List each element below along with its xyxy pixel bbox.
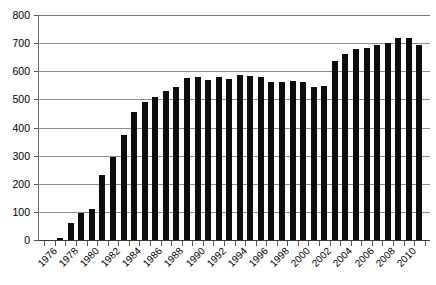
bar-chart: 0100200300400500600700800 19761978198019… — [0, 0, 436, 285]
bar — [311, 87, 317, 240]
bar — [247, 76, 253, 240]
bar — [110, 157, 116, 240]
bar — [406, 38, 412, 241]
bar — [131, 112, 137, 240]
bar — [226, 79, 232, 240]
y-tick-label: 600 — [0, 66, 30, 77]
bar — [195, 77, 201, 240]
y-tick-label: 700 — [0, 38, 30, 49]
bar — [89, 209, 95, 240]
bar — [121, 135, 127, 240]
bar — [68, 223, 74, 240]
bar — [268, 82, 274, 240]
bar — [332, 61, 338, 240]
bar — [99, 175, 105, 240]
plot-area — [38, 15, 430, 241]
y-tick-label: 500 — [0, 94, 30, 105]
bar — [290, 81, 296, 240]
y-tick-label: 0 — [0, 235, 30, 246]
bar — [57, 238, 63, 240]
bar — [416, 45, 422, 240]
bar — [279, 82, 285, 240]
bar — [216, 77, 222, 240]
bar — [342, 54, 348, 240]
bar — [237, 75, 243, 240]
bar — [184, 78, 190, 240]
bar — [142, 102, 148, 240]
y-tick-label: 100 — [0, 207, 30, 218]
bar-series — [39, 15, 430, 240]
bar — [364, 48, 370, 240]
bar — [163, 91, 169, 240]
bar — [300, 82, 306, 240]
x-axis-labels: 1976197819801982198419861988199019921994… — [0, 246, 436, 285]
bar — [321, 86, 327, 240]
y-tick-label: 400 — [0, 123, 30, 134]
y-tick-label: 800 — [0, 10, 30, 21]
bar — [78, 213, 84, 240]
bar — [374, 45, 380, 240]
y-tick-label: 300 — [0, 151, 30, 162]
y-tick-label: 200 — [0, 179, 30, 190]
bar — [258, 77, 264, 240]
bar — [385, 43, 391, 240]
bar — [152, 97, 158, 240]
bar — [173, 87, 179, 240]
bar — [395, 38, 401, 240]
bar — [353, 49, 359, 240]
bar — [205, 80, 211, 240]
